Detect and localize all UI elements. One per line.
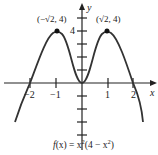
function-formula: f(x) = x2(4 − x2) <box>53 138 114 151</box>
function-graph: y x 4 −2 −1 1 2 (−√2, 4) (√2, 4) f(x) = … <box>0 0 158 155</box>
point-label-left: (−√2, 4) <box>37 14 67 24</box>
peak-point-left <box>55 29 60 34</box>
x-tick-label-neg2: −2 <box>24 89 35 100</box>
point-label-right: (√2, 4) <box>96 14 120 24</box>
x-tick-label-1: 1 <box>105 89 110 100</box>
x-axis-label: x <box>149 87 155 98</box>
x-tick-label-neg1: −1 <box>50 89 61 100</box>
x-axis-arrow-icon <box>150 80 157 86</box>
y-axis-label: y <box>86 2 92 13</box>
peak-point-right <box>105 29 110 34</box>
y-tick-label-4: 4 <box>70 25 75 36</box>
x-tick-label-2: 2 <box>131 89 136 100</box>
y-axis-arrow-icon <box>79 3 85 10</box>
